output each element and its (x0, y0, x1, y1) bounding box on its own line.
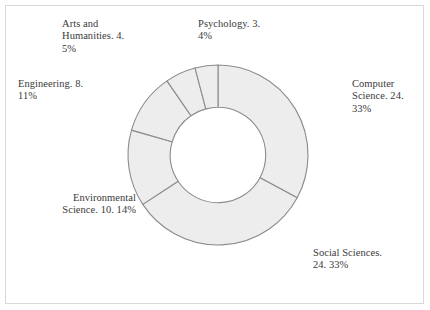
donut-slice-computer-science (218, 65, 308, 198)
donut-slice-group (128, 65, 308, 245)
donut-chart-figure: Computer Science. 24. 33% Social Science… (0, 0, 430, 310)
slice-label-computer-science: Computer Science. 24. 33% (352, 78, 426, 115)
slice-label-arts-and-humanities: Arts and Humanities. 4. 5% (62, 18, 163, 55)
slice-label-environmental-science: Environmental Science. 10. 14% (6, 192, 136, 217)
slice-label-social-sciences: Social Sciences. 24. 33% (313, 247, 425, 272)
slice-label-psychology: Psychology. 3. 4% (198, 18, 291, 43)
slice-label-engineering: Engineering. 8. 11% (18, 78, 114, 103)
